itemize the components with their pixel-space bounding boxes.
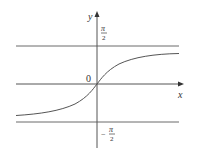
arctan-graph: y x 0 π 2 − π 2 (0, 0, 197, 153)
origin-label: 0 (86, 73, 91, 84)
pi-denominator: 2 (110, 135, 114, 143)
pi-denominator: 2 (102, 34, 106, 42)
y-axis-arrow-icon (95, 11, 100, 17)
x-axis-arrow-icon (178, 82, 184, 87)
pi-numerator: π (109, 125, 114, 134)
upper-asymptote-label: π 2 (101, 24, 107, 42)
y-axis-label: y (87, 11, 93, 22)
x-axis-label: x (177, 89, 183, 100)
pi-numerator: π (101, 24, 106, 33)
lower-asymptote-label: − π 2 (101, 125, 115, 143)
minus-sign: − (101, 130, 106, 139)
